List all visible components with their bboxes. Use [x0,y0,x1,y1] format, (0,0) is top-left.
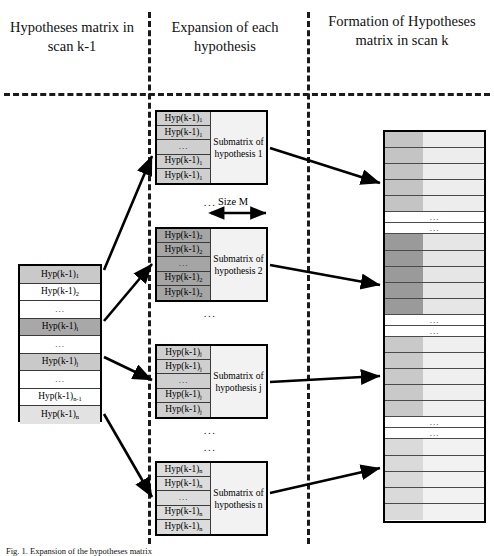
divider-vertical-right [307,12,310,544]
arrow-sub2-to-matrix [270,265,380,285]
right-matrix-cell-right [423,369,484,384]
right-matrix-cell-left [385,251,423,266]
sub2-row-1: Hyp(k-1)2 [157,243,210,257]
left-matrix-row-8: Hyp(k-1)n [20,406,100,424]
right-matrix-cell-right [423,504,484,520]
sub4-row-0: Hyp(k-1)n [157,463,210,477]
right-matrix-row [385,267,484,283]
submatrix-hypothesis-1: Hyp(k-1)1Hyp(k-1)1...Hyp(k-1)1Hyp(k-1)1 … [155,110,268,185]
right-matrix-cell-left [385,180,423,195]
arrow-hypn-to-subn [104,414,152,497]
right-matrix-row [385,148,484,164]
submatrix-n-cells: Hyp(k-1)nHyp(k-1)n...Hyp(k-1)nHyp(k-1)n [157,463,211,534]
right-matrix-cell-right [423,148,484,163]
right-matrix-cell-left [385,353,423,368]
right-matrix-row [385,196,484,212]
left-matrix-row-ellipsis: ... [20,301,100,319]
submatrix-2-cells: Hyp(k-1)2Hyp(k-1)2...Hyp(k-1)2Hyp(k-1)2 [157,229,211,300]
ellipsis-between-subj-subn-upper: ... [190,424,230,436]
submatrix-hypothesis-n: Hyp(k-1)nHyp(k-1)n...Hyp(k-1)nHyp(k-1)n … [155,461,268,536]
sub3-row-0: Hyp(k-1)j [157,346,210,360]
right-matrix-cell-left [385,267,423,282]
right-matrix-cell-left [385,234,423,249]
submatrix-n-label: Submatrix of hypothesis n [211,463,266,534]
arrow-hypj-to-subj [104,357,152,380]
right-matrix-row [385,385,484,401]
right-matrix-row [385,369,484,385]
right-matrix-cell-right [423,353,484,368]
right-matrix-row [385,299,484,315]
right-matrix-row [385,251,484,267]
right-matrix-cell-right [423,488,484,503]
submatrix-hypothesis-2: Hyp(k-1)2Hyp(k-1)2...Hyp(k-1)2Hyp(k-1)2 … [155,227,268,302]
right-matrix-cell-right [423,164,484,179]
left-matrix-row-7: Hyp(k-1)n-1 [20,389,100,407]
right-matrix-row [385,472,484,488]
right-matrix-cell-left [385,472,423,487]
right-matrix-row [385,439,484,455]
right-matrix-row [385,164,484,180]
sub1-row-3: Hyp(k-1)1 [157,155,210,169]
sub4-row-1: Hyp(k-1)n [157,477,210,491]
sub3-row-1: Hyp(k-1)j [157,360,210,374]
right-matrix-ellipsis-row: ... [385,417,484,428]
arrow-hyp1-to-sub1 [104,156,152,270]
sub3-row-4: Hyp(k-1)j [157,403,210,417]
arrow-hypi-to-sub2 [104,264,152,321]
submatrix-j-cells: Hyp(k-1)jHyp(k-1)j...Hyp(k-1)jHyp(k-1)j [157,346,211,417]
sub1-row-0: Hyp(k-1)1 [157,112,210,126]
right-matrix-ellipsis-row: ... [385,428,484,439]
sub4-row-4: Hyp(k-1)n [157,520,210,534]
right-matrix-cell-left [385,132,423,147]
left-matrix-row-5: Hyp(k-1)j [20,354,100,372]
right-matrix-row [385,504,484,520]
right-matrix-ellipsis-row: ... [385,212,484,223]
right-matrix-cell-left [385,488,423,503]
column-title-left: Hypotheses matrix in scan k-1 [2,18,142,55]
submatrix-j-label: Submatrix of hypothesis j [211,346,266,417]
right-matrix-cell-right [423,456,484,471]
sub2-row-ellipsis: ... [157,257,210,271]
right-matrix-ellipsis-row: ... [385,326,484,337]
right-matrix-cell-left [385,369,423,384]
right-matrix-cell-right [423,401,484,416]
right-matrix-row [385,180,484,196]
figure-root: Hypotheses matrix in scan k-1 Expansion … [0,0,494,556]
sub2-row-3: Hyp(k-1)2 [157,272,210,286]
divider-horizontal-header [4,93,490,96]
right-matrix-cell-left [385,439,423,454]
right-matrix-cell-right [423,385,484,400]
right-matrix-cell-right [423,299,484,314]
right-matrix-cell-right [423,196,484,211]
submatrix-hypothesis-j: Hyp(k-1)jHyp(k-1)j...Hyp(k-1)jHyp(k-1)j … [155,344,268,419]
right-matrix-cell-left [385,283,423,298]
right-matrix-cell-left [385,504,423,520]
left-matrix-row-3: Hyp(k-1)i [20,319,100,337]
right-matrix-row [385,353,484,369]
right-matrix-cell-right [423,132,484,147]
right-matrix-row [385,337,484,353]
right-matrix-row [385,283,484,299]
divider-vertical-left [148,12,151,544]
right-matrix-row [385,456,484,472]
right-matrix-ellipsis-row: ... [385,315,484,326]
sub1-row-1: Hyp(k-1)1 [157,126,210,140]
sub3-row-ellipsis: ... [157,374,210,388]
right-matrix-cell-left [385,196,423,211]
right-matrix-ellipsis-row: ... [385,223,484,234]
sub3-row-3: Hyp(k-1)j [157,389,210,403]
right-matrix-cell-right [423,234,484,249]
right-matrix-cell-right [423,472,484,487]
right-matrix-cell-left [385,164,423,179]
left-matrix-row-1: Hyp(k-1)2 [20,284,100,302]
left-matrix-row-ellipsis: ... [20,371,100,389]
left-matrix-row-0: Hyp(k-1)1 [20,266,100,284]
right-matrix-cell-right [423,180,484,195]
right-matrix-row [385,132,484,148]
right-matrix-cell-right [423,283,484,298]
left-matrix-row-ellipsis: ... [20,336,100,354]
right-matrix-cell-right [423,439,484,454]
right-matrix-cell-left [385,385,423,400]
right-matrix-row [385,234,484,250]
hypotheses-matrix-scan-k: .................. [383,130,486,523]
